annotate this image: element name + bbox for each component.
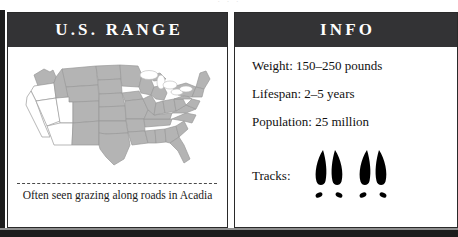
info-row-lifespan: Lifespan: 2–5 years (252, 87, 449, 100)
top-white-strip: · · · (0, 0, 458, 12)
panel-body-info: Weight: 150–250 pounds Lifespan: 2–5 yea… (235, 47, 457, 227)
tracks-label: Tracks: (252, 168, 291, 184)
ghost-text: · · · (0, 0, 458, 6)
info-row-population: Population: 25 million (252, 115, 449, 128)
panel-header-us-range: U.S. RANGE (8, 13, 227, 47)
panel-body-us-range: Often seen grazing along roads in Acadia (8, 47, 227, 227)
panel-title-us-range: U.S. RANGE (52, 20, 183, 40)
panel-info: INFO Weight: 150–250 pounds Lifespan: 2–… (234, 12, 458, 228)
panel-title-info: INFO (317, 20, 376, 40)
frame-bottom-bar (0, 230, 458, 237)
panel-us-range: U.S. RANGE (7, 12, 228, 228)
united-states-map-svg (20, 53, 216, 173)
info-list: Weight: 150–250 pounds Lifespan: 2–5 yea… (252, 59, 449, 204)
hoof-print-icon (307, 148, 399, 204)
range-caption: Often seen grazing along roads in Acadia (8, 189, 227, 201)
panel-container: U.S. RANGE (7, 12, 458, 228)
caption-divider (17, 183, 217, 184)
info-row-weight: Weight: 150–250 pounds (252, 59, 449, 72)
frame-left-bar (0, 10, 5, 237)
info-row-tracks: Tracks: (252, 148, 449, 204)
hoof-print-icon-svg (307, 148, 399, 204)
us-range-map (8, 49, 227, 177)
fact-card-page: · · · U.S. RANGE (0, 0, 458, 237)
panel-header-info: INFO (235, 13, 457, 47)
